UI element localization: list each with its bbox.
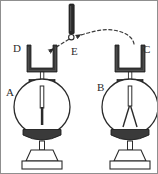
arc-segment-from-c [77,30,135,44]
electroscope-left [14,45,70,169]
base-collar-left [23,130,61,141]
label-c: C [143,43,150,55]
bracket-c-inner-highlight [116,47,143,71]
charged-rod-highlight [70,6,71,31]
stand-post-left [40,141,45,150]
base-collar-right [111,130,149,141]
stand-pedestal-right [114,150,146,161]
stand-base-left [22,161,62,169]
electroscope-right [102,45,158,169]
inner-rod-right [128,86,132,106]
stand-post-right [128,141,133,150]
arc-segment-to-d [50,40,69,52]
label-a: A [6,86,14,98]
inner-rod-left [40,86,44,108]
bracket-c [115,45,145,72]
stand-pedestal-left [26,150,58,161]
bracket-c-shape [115,45,145,72]
label-b: B [97,81,104,93]
rod-tip-sphere-icon [69,35,74,40]
gold-leaves-left-closed [42,107,43,125]
electroscope-figure: D E C A B [0,0,158,174]
dashed-motion-arc [50,30,135,52]
label-d: D [13,42,21,54]
charged-rod-group [69,4,75,40]
stand-base-right [110,161,150,169]
figure-canvas: D E C A B [1,1,158,174]
label-e: E [71,45,78,57]
charged-rod [69,4,74,34]
